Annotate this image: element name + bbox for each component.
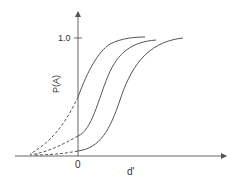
curve-1-dashed [30,97,78,154]
y-tick-label: 1.0 [58,34,71,43]
sigmoid-chart [0,0,235,179]
curve-3-dashed [35,151,78,155]
x-axis-label: d' [127,167,134,177]
x-origin-label: 0 [75,160,81,170]
y-axis-label: P(A) [52,75,61,93]
curve-3-solid [78,38,183,151]
curve-2-solid [78,40,156,136]
